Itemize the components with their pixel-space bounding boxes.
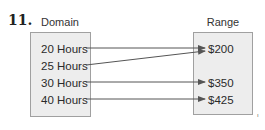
arrow-25-to-200 [86, 51, 205, 65]
corner-mark: ı [257, 112, 259, 118]
mapping-arrows [0, 0, 265, 130]
